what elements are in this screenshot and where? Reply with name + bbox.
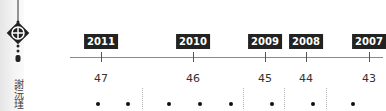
vertical-title: 謝沅瑾 bbox=[11, 79, 23, 109]
year-tick bbox=[306, 52, 307, 62]
year-label[interactable]: 2007 bbox=[352, 34, 386, 49]
event-dot[interactable] bbox=[198, 102, 202, 106]
year-separator bbox=[243, 88, 244, 109]
year-separator bbox=[326, 88, 327, 109]
year-label[interactable]: 2008 bbox=[289, 34, 323, 49]
event-dot[interactable] bbox=[126, 102, 130, 106]
age-label: 44 bbox=[299, 72, 313, 85]
timeline-axis bbox=[70, 57, 383, 58]
event-dot[interactable] bbox=[351, 102, 355, 106]
year-tick bbox=[101, 52, 102, 62]
year-label[interactable]: 2011 bbox=[84, 34, 118, 49]
year-label[interactable]: 2009 bbox=[248, 34, 282, 49]
age-label: 46 bbox=[186, 72, 200, 85]
event-dot[interactable] bbox=[229, 102, 233, 106]
event-dot[interactable] bbox=[270, 102, 274, 106]
year-tick bbox=[193, 52, 194, 62]
year-separator bbox=[142, 88, 143, 109]
year-separator bbox=[284, 88, 285, 109]
age-label: 45 bbox=[258, 72, 272, 85]
event-dot[interactable] bbox=[311, 102, 315, 106]
age-label: 47 bbox=[94, 72, 108, 85]
event-dot[interactable] bbox=[167, 102, 171, 106]
age-label: 43 bbox=[362, 72, 376, 85]
year-label[interactable]: 2010 bbox=[176, 34, 210, 49]
year-tick bbox=[265, 52, 266, 62]
year-tick bbox=[369, 52, 370, 62]
event-dot[interactable] bbox=[96, 102, 100, 106]
